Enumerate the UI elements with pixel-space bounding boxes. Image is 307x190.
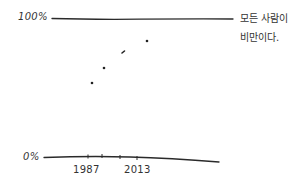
data-point xyxy=(91,82,94,85)
annotation-text: 모든 사람이 비만이다. xyxy=(240,9,288,47)
top-100-percent-line xyxy=(52,19,233,20)
data-point xyxy=(103,67,106,70)
data-point xyxy=(122,51,125,53)
annotation-line-1: 모든 사람이 xyxy=(240,9,288,28)
x-label-1987: 1987 xyxy=(73,164,100,175)
obesity-extrapolation-chart: 100% 0% 1987 2013 모든 사람이 비만이다. xyxy=(0,0,307,190)
data-point xyxy=(146,40,149,43)
baseline-axis xyxy=(44,157,219,162)
annotation-line-2: 비만이다. xyxy=(240,28,288,47)
x-label-2013: 2013 xyxy=(124,164,151,175)
y-label-0-percent: 0% xyxy=(23,151,39,162)
y-label-100-percent: 100% xyxy=(18,11,48,22)
